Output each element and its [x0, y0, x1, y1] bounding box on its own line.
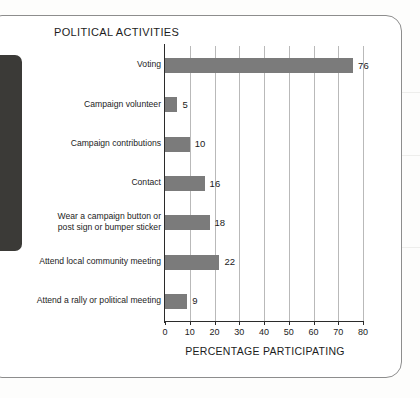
bar-value-label: 22	[224, 256, 235, 267]
bar	[165, 58, 353, 73]
tick-mark	[215, 321, 216, 325]
category-labels: VotingCampaign volunteerCampaign contrib…	[0, 0, 161, 398]
bar	[165, 255, 219, 270]
gridline	[363, 46, 364, 321]
gridline	[338, 46, 339, 321]
x-tick-label: 10	[185, 327, 195, 337]
category-label: Contact	[0, 177, 161, 188]
tick-mark	[363, 321, 364, 325]
category-label-line: Voting	[0, 59, 161, 70]
bar-value-label: 16	[210, 178, 221, 189]
tick-mark	[314, 321, 315, 325]
bar-value-label: 5	[182, 99, 187, 110]
x-tick-label: 30	[234, 327, 244, 337]
x-tick-label: 40	[259, 327, 269, 337]
tick-mark	[190, 321, 191, 325]
category-label: Attend a rally or political meeting	[0, 295, 161, 306]
bar-value-label: 76	[358, 60, 369, 71]
x-tick-label: 80	[358, 327, 368, 337]
gridline	[264, 46, 265, 321]
category-label-line: Attend local community meeting	[0, 256, 161, 267]
x-tick-label: 70	[333, 327, 343, 337]
tick-mark	[239, 321, 240, 325]
x-tick-label: 50	[284, 327, 294, 337]
gridline	[314, 46, 315, 321]
gridline	[239, 46, 240, 321]
bar	[165, 97, 177, 112]
category-label-line: Wear a campaign button or	[0, 211, 161, 222]
tick-mark	[264, 321, 265, 325]
x-tick-label: 0	[162, 327, 167, 337]
category-label-line: post sign or bumper sticker	[0, 222, 161, 233]
bar-value-label: 10	[195, 138, 206, 149]
tick-mark	[165, 321, 166, 325]
bar	[165, 215, 210, 230]
tick-mark	[338, 321, 339, 325]
bar	[165, 176, 205, 191]
bar-value-label: 9	[192, 295, 197, 306]
bar-value-label: 18	[215, 217, 226, 228]
category-label: Wear a campaign button orpost sign or bu…	[0, 211, 161, 232]
x-tick-label: 20	[209, 327, 219, 337]
tick-mark	[289, 321, 290, 325]
category-label: Campaign contributions	[0, 138, 161, 149]
bar	[165, 137, 190, 152]
category-label-line: Campaign volunteer	[0, 99, 161, 110]
x-tick-label: 60	[308, 327, 318, 337]
x-axis-title: PERCENTAGE PARTICIPATING	[166, 345, 364, 357]
category-label: Voting	[0, 59, 161, 70]
category-label-line: Attend a rally or political meeting	[0, 295, 161, 306]
category-label-line: Campaign contributions	[0, 138, 161, 149]
category-label: Attend local community meeting	[0, 256, 161, 267]
category-label: Campaign volunteer	[0, 99, 161, 110]
category-label-line: Contact	[0, 177, 161, 188]
gridline	[289, 46, 290, 321]
bar	[165, 294, 187, 309]
